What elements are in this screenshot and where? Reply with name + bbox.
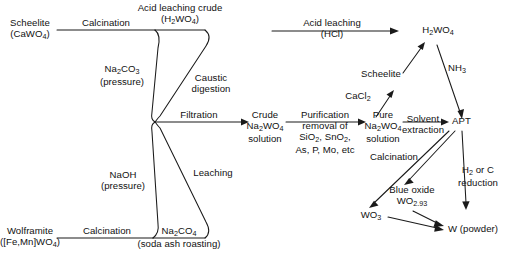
edge-h2wo4-to-apt [437, 45, 460, 112]
node-blue-oxide: Blue oxideWO2.93 [389, 185, 434, 209]
arrowhead-apt-to-w-powder [462, 201, 469, 210]
edge-label-leaching: Leaching [193, 168, 232, 179]
edge-leaching [155, 122, 209, 238]
edge-label-calcination-top: Calcination [82, 18, 130, 29]
node-tungsten-powder: W (powder) [448, 224, 498, 235]
edge-label-caustic-digestion: Causticdigestion [192, 73, 231, 95]
edge-label-filtration: Filtration [180, 110, 217, 121]
edge-label-purification: Purificationremoval ofSiO2, SnO2,As, P, … [295, 110, 354, 156]
arrowhead-apt-to-wo3 [369, 201, 379, 208]
node-tungsten-trioxide: WO3 [361, 210, 382, 223]
process-flow-diagram: Scheelite(CaWO4) Wolframite([Fe,Mn]WO4) … [0, 0, 510, 265]
edge-label-acid-leaching: Acid leaching(HCl) [303, 18, 361, 40]
edge-label-solvent-extraction: Solventextraction [402, 114, 444, 136]
node-crude-solution: CrudeNa2WO4solution [247, 110, 284, 145]
node-wolframite-ore: Wolframite([Fe,Mn]WO4) [0, 226, 60, 250]
edge-label-calcination-bottom: Calcination [83, 226, 131, 237]
edge-label-sodium-hydroxide: NaOH(pressure) [101, 170, 145, 192]
edge-scheelite-to-h2wo4 [403, 48, 421, 73]
edge-naoh-pressure [152, 122, 159, 238]
edge-label-sodium-carbonate: Na2CO3(pressure) [100, 64, 144, 88]
arrowhead-acid-leaching-hcl [390, 27, 399, 34]
edge-label-calcination-apt: Calcination [370, 152, 418, 163]
edge-wo3-to-w-powder [388, 217, 437, 228]
edge-label-reduction: H2 or Creduction [458, 165, 498, 189]
edge-label-ammonia: NH3 [448, 63, 466, 76]
edge-label-calcium-chloride: CaCl2 [345, 91, 371, 104]
node-apt: APT [452, 116, 471, 127]
arrowhead-scheelite-to-h2wo4 [418, 42, 426, 50]
node-soda-ash: Na2CO4(soda ash roasting) [137, 226, 220, 250]
edge-scheelite-na2co3-pressure [152, 30, 160, 122]
arrowhead-blue-oxide-to-w-powder [433, 220, 444, 227]
node-scheelite-ore: Scheelite(CaWO4) [10, 18, 50, 42]
node-acid-leaching-crude: Acid leaching crude(H2WO4) [138, 3, 223, 27]
arrowhead-cacl2-to-scheelite [387, 90, 395, 98]
edge-blue-oxide-to-w-powder [413, 211, 437, 223]
node-scheelite-intermediate: Scheelite [361, 69, 401, 80]
node-tungstic-acid: H2WO4 [422, 25, 454, 38]
node-pure-solution: PureNa2WO4solution [365, 110, 402, 145]
